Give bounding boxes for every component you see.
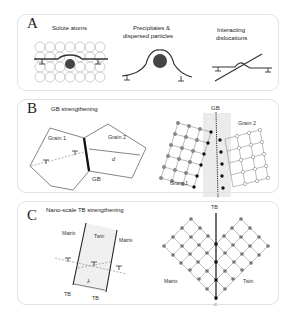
matrix-left-label: Matrix	[62, 230, 76, 236]
twin-label-right: Twin	[243, 278, 253, 284]
panel-c-tb-strengthening	[17, 201, 279, 305]
panel-b-letter: B	[27, 100, 37, 117]
tb-label-right: TB	[211, 204, 218, 210]
twin-spacing-lambda-label: λ	[87, 278, 90, 284]
panel-b-title: GB strengthening	[51, 106, 98, 113]
matrix-right-label: Matrix	[119, 237, 133, 243]
stacking-c-bottom-label: C	[214, 302, 217, 307]
panel-c-title: Nano-scale TB strengthening	[46, 207, 124, 214]
gb-label-right: GB	[211, 105, 220, 111]
grain-size-d-label: d	[112, 156, 115, 162]
matrix-label-right: Matrix	[164, 278, 178, 284]
grain1-label-right: Grain 1	[170, 180, 188, 186]
twin-label-left: Twin	[94, 233, 104, 239]
tb1-label: TB	[64, 291, 71, 297]
grain2-label-right: Grain 2	[238, 120, 256, 126]
tb2-label: TB	[92, 295, 99, 301]
panel-c-letter: C	[27, 207, 37, 224]
grain1-label: Grain 1	[48, 135, 66, 141]
panel-b-gb-strengthening	[17, 99, 279, 193]
gb-label-left: GB	[92, 176, 101, 182]
grain2-label: Grain 2	[108, 134, 126, 140]
